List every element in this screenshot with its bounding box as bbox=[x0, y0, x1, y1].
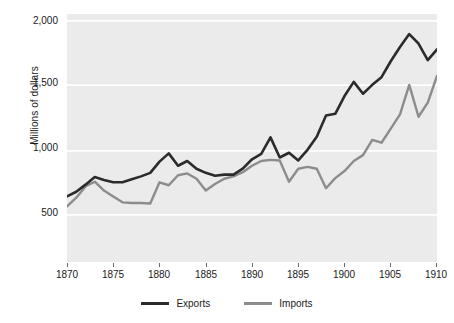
legend-label-imports: Imports bbox=[279, 298, 312, 309]
legend-item-exports: Exports bbox=[141, 298, 210, 309]
series-line-imports bbox=[67, 76, 437, 207]
legend-swatch-exports-icon bbox=[141, 302, 169, 305]
x-tick-label-1875: 1875 bbox=[90, 269, 136, 280]
legend-swatch-imports-icon bbox=[244, 302, 272, 305]
x-tick-mark-1875 bbox=[113, 263, 114, 267]
y-tick-label-2000: 2,000 bbox=[0, 15, 58, 26]
x-tick-label-1870: 1870 bbox=[44, 269, 90, 280]
x-tick-mark-1910 bbox=[436, 263, 437, 267]
x-tick-mark-1895 bbox=[298, 263, 299, 267]
x-tick-label-1910: 1910 bbox=[413, 269, 454, 280]
y-tick-label-1000: 1,000 bbox=[0, 142, 58, 153]
gridlines bbox=[67, 21, 437, 215]
x-tick-label-1895: 1895 bbox=[275, 269, 321, 280]
y-tick-label-500: 500 bbox=[0, 207, 58, 218]
x-tick-label-1890: 1890 bbox=[229, 269, 275, 280]
x-tick-mark-1885 bbox=[206, 263, 207, 267]
line-chart: Millions of dollars 2,000 1,500 1,000 50… bbox=[0, 0, 454, 323]
x-tick-label-1885: 1885 bbox=[183, 269, 229, 280]
plot-area bbox=[67, 14, 437, 262]
chart-legend: Exports Imports bbox=[0, 298, 454, 309]
y-axis-title: Millions of dollars bbox=[29, 26, 40, 186]
x-tick-label-1905: 1905 bbox=[367, 269, 413, 280]
plot-svg bbox=[67, 14, 437, 262]
series-line-exports bbox=[67, 34, 437, 196]
x-tick-label-1880: 1880 bbox=[136, 269, 182, 280]
x-tick-mark-1900 bbox=[344, 263, 345, 267]
legend-item-imports: Imports bbox=[244, 298, 312, 309]
x-tick-mark-1905 bbox=[390, 263, 391, 267]
x-tick-mark-1870 bbox=[67, 263, 68, 267]
x-tick-label-1900: 1900 bbox=[321, 269, 367, 280]
y-tick-label-1500: 1,500 bbox=[0, 77, 58, 88]
x-tick-mark-1880 bbox=[159, 263, 160, 267]
x-tick-mark-1890 bbox=[252, 263, 253, 267]
legend-label-exports: Exports bbox=[176, 298, 210, 309]
